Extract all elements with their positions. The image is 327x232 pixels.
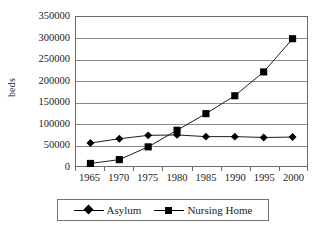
x-axis-tick-label: 2000 bbox=[283, 172, 304, 184]
chart-figure: beds 05000010000015000020000025000030000… bbox=[0, 0, 327, 232]
x-axis-tick-mark bbox=[104, 167, 105, 171]
y-axis-tick-label: 50000 bbox=[44, 140, 70, 150]
data-point-marker bbox=[115, 135, 123, 143]
x-axis-tick-label: 1985 bbox=[196, 172, 217, 184]
legend-label: Nursing Home bbox=[187, 204, 252, 216]
legend-item[interactable]: Nursing Home bbox=[154, 204, 252, 216]
series-layer bbox=[76, 17, 307, 166]
x-axis-tick-mark bbox=[279, 167, 280, 171]
series-nursing-home bbox=[87, 35, 296, 167]
data-point-marker bbox=[202, 133, 210, 141]
data-point-marker bbox=[87, 160, 94, 167]
x-axis-tick-mark bbox=[221, 167, 222, 171]
data-point-marker bbox=[260, 68, 267, 75]
y-axis-tick-label: 350000 bbox=[39, 11, 71, 21]
data-point-marker bbox=[173, 127, 180, 134]
legend-marker bbox=[165, 207, 172, 214]
x-axis-tick-mark bbox=[307, 167, 308, 171]
x-axis-tick-label: 1995 bbox=[254, 172, 275, 184]
square-marker-icon bbox=[154, 205, 184, 215]
legend-marker bbox=[83, 205, 93, 215]
data-point-marker bbox=[116, 156, 123, 163]
x-axis-tick-label: 1965 bbox=[79, 172, 100, 184]
data-point-marker bbox=[144, 131, 152, 139]
plot-area bbox=[75, 16, 308, 167]
y-axis-tick-label: 200000 bbox=[39, 76, 71, 86]
legend-label: Asylum bbox=[107, 204, 142, 216]
legend-item[interactable]: Asylum bbox=[74, 204, 142, 216]
y-axis-tick-labels: 0500001000001500002000002500003000003500… bbox=[0, 0, 74, 232]
x-axis-tick-mark bbox=[250, 167, 251, 171]
x-axis-tick-label: 1980 bbox=[166, 172, 187, 184]
x-axis-tick-label: 1970 bbox=[108, 172, 129, 184]
y-axis-tick-label: 0 bbox=[65, 162, 70, 172]
x-axis-tick-mark bbox=[162, 167, 163, 171]
data-point-marker bbox=[86, 139, 94, 147]
data-point-marker bbox=[231, 133, 239, 141]
series-line bbox=[90, 39, 292, 164]
x-axis-tick-label: 1975 bbox=[137, 172, 158, 184]
y-axis-tick-label: 250000 bbox=[39, 54, 71, 64]
data-point-marker bbox=[289, 35, 296, 42]
data-point-marker bbox=[231, 92, 238, 99]
y-axis-tick-label: 150000 bbox=[39, 97, 71, 107]
data-point-marker bbox=[202, 110, 209, 117]
diamond-marker-icon bbox=[74, 205, 104, 215]
y-axis-tick-label: 300000 bbox=[39, 33, 71, 43]
x-axis-tick-mark bbox=[192, 167, 193, 171]
chart-legend: AsylumNursing Home bbox=[57, 199, 269, 221]
data-point-marker bbox=[260, 134, 268, 142]
series-asylum bbox=[86, 131, 296, 147]
y-axis-tick-label: 100000 bbox=[39, 119, 71, 129]
x-axis-tick-labels: 19651970197519801985199019952000 bbox=[75, 172, 308, 188]
x-axis-tick-mark bbox=[133, 167, 134, 171]
x-axis-tick-label: 1990 bbox=[225, 172, 246, 184]
data-point-marker bbox=[289, 133, 297, 141]
x-axis-tick-mark bbox=[75, 167, 76, 171]
data-point-marker bbox=[145, 143, 152, 150]
